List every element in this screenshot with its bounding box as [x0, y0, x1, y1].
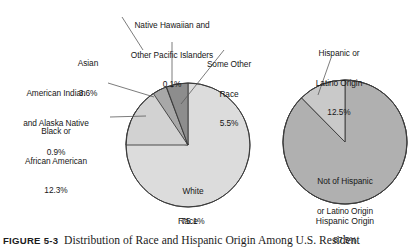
label-black-african-american: Black or African American 12.3%: [4, 108, 108, 215]
label-hispanic-value: 12.5%: [292, 108, 386, 118]
label-not-hispanic-line1: Not of Hispanic: [293, 177, 397, 187]
chart-title-race: Race: [158, 216, 218, 226]
figure-caption: FIGURE 5-3 Distribution of Race and Hisp…: [3, 233, 415, 248]
label-some-other-race-line2: Race: [181, 90, 277, 100]
figure-container: Native Hawaiian and Other Pacific Island…: [0, 0, 417, 251]
label-hispanic-line2: Latino Origin: [292, 79, 386, 89]
chart-title-hispanic-origin: Hispanic Origin: [293, 216, 397, 226]
figure-caption-text: Distribution of Race and Hispanic Origin…: [64, 234, 360, 247]
label-some-other-race: Some Other Race 5.5%: [181, 41, 277, 148]
label-black-african-american-line2: African American: [4, 157, 108, 167]
label-asian-line1: Asian: [52, 59, 124, 69]
label-hispanic: Hispanic or Latino Origin 12.5%: [292, 30, 386, 137]
label-white-line1: White: [165, 187, 221, 197]
label-black-african-american-value: 12.3%: [4, 186, 108, 196]
label-hispanic-line1: Hispanic or: [292, 49, 386, 59]
label-some-other-race-line1: Some Other: [181, 60, 277, 70]
label-black-african-american-line1: Black or: [4, 127, 108, 137]
label-native-hawaiian-line1: Native Hawaiian and: [84, 21, 260, 31]
label-some-other-race-value: 5.5%: [181, 119, 277, 129]
figure-number: FIGURE 5-3: [3, 235, 58, 246]
label-not-hispanic-line2: or Latino Origin: [293, 207, 397, 217]
label-american-indian-line1: American Indian: [4, 89, 108, 99]
